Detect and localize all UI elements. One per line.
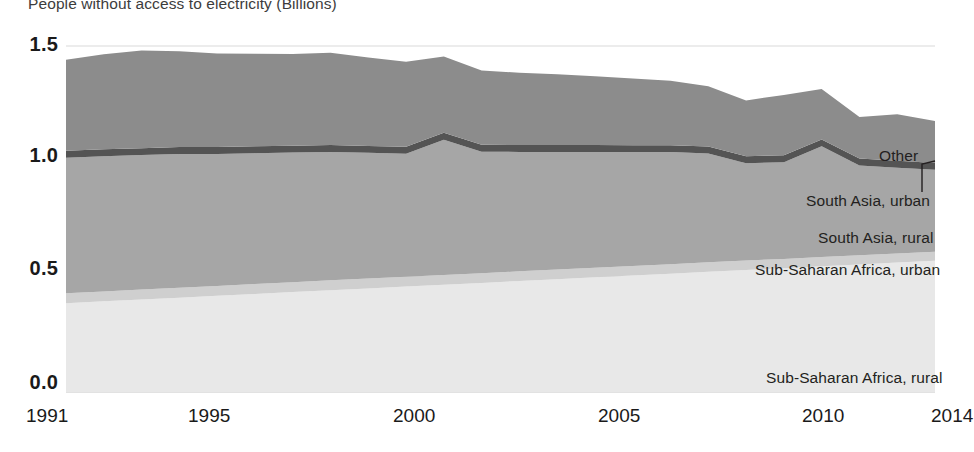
- series-label: Sub-Saharan Africa, rural: [766, 369, 943, 387]
- y-axis-tick-label: 0.0: [6, 371, 58, 394]
- series-label: Other: [879, 147, 918, 165]
- series-label: Sub-Saharan Africa, urban: [755, 261, 940, 279]
- x-axis-tick-label: 2005: [598, 405, 640, 427]
- x-axis-tick-label: 2000: [393, 405, 435, 427]
- x-axis-tick-label: 2010: [802, 405, 844, 427]
- y-axis-ticks: 1.51.00.50.0: [0, 0, 58, 452]
- y-axis-tick-label: 1.5: [6, 33, 58, 56]
- chart-root: People without access to electricity (Bi…: [0, 0, 974, 452]
- series-label: South Asia, rural: [818, 229, 933, 247]
- y-axis-tick-label: 0.5: [6, 257, 58, 280]
- x-axis-tick-label: 1995: [188, 405, 230, 427]
- x-axis-tick-label: 2014: [931, 405, 973, 427]
- series-label: South Asia, urban: [806, 192, 930, 210]
- y-axis-tick-label: 1.0: [6, 144, 58, 167]
- x-axis-tick-label: 1991: [26, 405, 68, 427]
